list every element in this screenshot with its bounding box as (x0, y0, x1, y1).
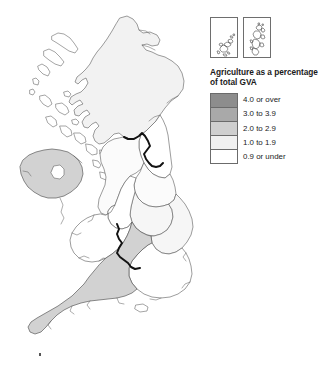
legend-item-2-0-to-2-9[interactable]: 2.0 to 2.9 (210, 121, 330, 135)
isle-of-wight (135, 304, 148, 312)
map-figure: Agriculture as a percentage of total GVA… (0, 0, 333, 380)
legend-title-line-1: Agriculture as a percentage (210, 67, 328, 77)
legend-swatch (210, 149, 238, 163)
legend-item-label: 0.9 or under (243, 152, 286, 161)
legend-title: Agriculture as a percentage of total GVA (210, 67, 328, 88)
shetland-inset-svg (244, 18, 271, 58)
legend-item-4-0-or-over[interactable]: 4.0 or over (210, 93, 330, 107)
orkney-inset[interactable] (210, 17, 238, 58)
map-legend: Agriculture as a percentage of total GVA… (210, 67, 330, 164)
legend-item-3-0-to-3-9[interactable]: 3.0 to 3.9 (210, 107, 330, 121)
legend-swatch (210, 121, 238, 135)
legend-class-list: 4.0 or over 3.0 to 3.9 2.0 to 2.9 1.0 to… (210, 93, 330, 164)
legend-item-label: 2.0 to 2.9 (243, 124, 276, 133)
uk-map[interactable] (0, 0, 210, 380)
legend-title-line-2: of total GVA (210, 77, 328, 87)
ni-southern-tail (60, 198, 64, 224)
shetland-inset[interactable] (243, 17, 271, 58)
uk-map-svg[interactable] (0, 0, 210, 380)
inset-maps (210, 17, 274, 59)
legend-item-1-0-to-1-9[interactable]: 1.0 to 1.9 (210, 135, 330, 149)
orkney-inset-svg (211, 18, 238, 58)
isles-of-scilly (39, 353, 41, 356)
legend-item-label: 4.0 or over (243, 95, 281, 104)
legend-item-0-9-or-under[interactable]: 0.9 or under (210, 149, 330, 163)
legend-item-label: 3.0 to 3.9 (243, 109, 276, 118)
legend-swatch (210, 107, 238, 121)
legend-item-label: 1.0 to 1.9 (243, 138, 276, 147)
legend-swatch (210, 93, 238, 107)
region-scotland[interactable] (69, 16, 184, 144)
legend-swatch (210, 135, 238, 149)
